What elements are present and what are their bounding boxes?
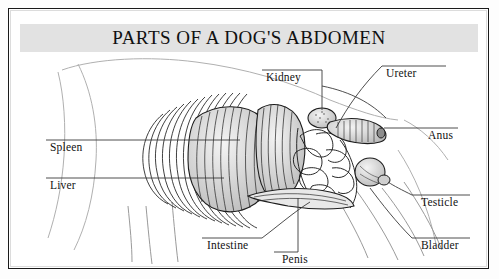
label-testicle: Testicle (421, 196, 458, 208)
label-bladder: Bladder (421, 239, 459, 251)
label-ureter: Ureter (386, 67, 417, 79)
label-kidney: Kidney (266, 71, 301, 83)
label-liver: Liver (50, 179, 76, 191)
label-penis: Penis (282, 253, 308, 265)
label-anus: Anus (428, 129, 453, 141)
bladder-curve-line (370, 188, 412, 238)
illustration-page: PARTS OF A DOG'S ABDOMEN (0, 0, 499, 279)
dog-abdomen-drawing (0, 0, 499, 279)
colon (327, 119, 386, 144)
label-intestine: Intestine (207, 239, 248, 251)
front-legs (128, 202, 178, 264)
label-spleen: Spleen (50, 141, 83, 153)
